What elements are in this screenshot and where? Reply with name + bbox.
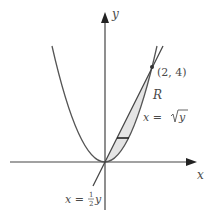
x-axis-arrow-icon (186, 158, 197, 166)
line-equation-var: y (94, 193, 102, 206)
point-label: (2, 4) (157, 66, 187, 79)
x-axis-label: x (197, 168, 204, 182)
region-diagram: y x (2, 4) R x = y x = 1 2 y (0, 0, 207, 216)
line-equation-prefix: x = (65, 193, 87, 206)
intersection-point (150, 65, 154, 69)
y-axis-label: y (111, 7, 119, 21)
line-equation-numerator: 1 (89, 191, 93, 199)
sqrt-equation-radicand: y (178, 111, 186, 124)
sqrt-equation-prefix: x = (143, 111, 165, 124)
line-equation-denominator: 2 (89, 200, 93, 208)
region-label: R (152, 88, 162, 102)
y-axis-arrow-icon (101, 12, 109, 23)
